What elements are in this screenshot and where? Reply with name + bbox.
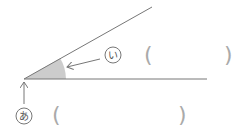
vertex-label: あ <box>16 108 32 124</box>
angle-label: い <box>105 47 121 63</box>
angle-answer-open-paren: ( <box>144 42 153 67</box>
vertex-answer-open-paren: ( <box>52 102 61 127</box>
angle-diagram: い あ ( ) ( ) <box>0 0 244 135</box>
angle-label-text: い <box>108 50 118 61</box>
vertex-label-text: あ <box>19 111 29 122</box>
vertex-answer-box[interactable]: ( ) <box>52 102 187 127</box>
vertex-answer-close-paren: ) <box>178 102 187 127</box>
angle-arrow <box>67 59 100 67</box>
angle-answer-box[interactable]: ( ) <box>144 42 233 67</box>
angle-answer-close-paren: ) <box>224 42 233 67</box>
upper-ray <box>24 7 152 79</box>
